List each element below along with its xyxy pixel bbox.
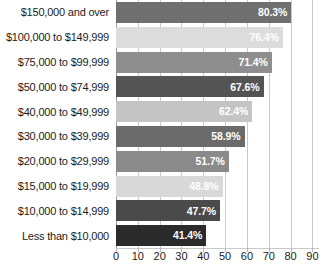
bar: 47.7% — [116, 200, 220, 221]
bar: 62.4% — [116, 101, 252, 122]
category-label: $75,000 to $99,999 — [18, 52, 109, 73]
category-label: $150,000 and over — [21, 2, 109, 23]
bar: 71.4% — [116, 52, 272, 73]
bar: 76.4% — [116, 27, 283, 48]
category-label: $30,000 to $39,999 — [18, 126, 109, 147]
bar-chart: $150,000 and over$100,000 to $149,999$75… — [0, 0, 326, 268]
bar-value-label: 58.9% — [211, 131, 240, 142]
bar-value-label: 67.6% — [230, 82, 259, 93]
category-label: $50,000 to $74,999 — [18, 76, 109, 97]
category-label: $40,000 to $49,999 — [18, 101, 109, 122]
bar: 51.7% — [116, 151, 229, 172]
x-tick-label: 10 — [132, 250, 144, 262]
x-axis: 0102030405060708090 — [116, 248, 319, 268]
bar-value-label: 80.3% — [258, 7, 287, 18]
bar: 48.8% — [116, 176, 223, 197]
category-label: $100,000 to $149,999 — [6, 27, 109, 48]
x-tick-label: 30 — [175, 250, 187, 262]
x-tick-label: 20 — [154, 250, 166, 262]
category-label: $10,000 to $14,999 — [18, 200, 109, 221]
bar-value-label: 48.8% — [189, 181, 218, 192]
bar: 80.3% — [116, 2, 291, 23]
plot-area: 80.3%76.4%71.4%67.6%62.4%58.9%51.7%48.8%… — [116, 0, 319, 248]
x-tick-label: 40 — [197, 250, 209, 262]
category-label: $15,000 to $19,999 — [18, 176, 109, 197]
x-tick-label: 80 — [284, 250, 296, 262]
x-axis-line — [116, 248, 319, 249]
bar-value-label: 62.4% — [219, 106, 248, 117]
bar: 67.6% — [116, 76, 264, 97]
x-tick-label: 50 — [219, 250, 231, 262]
x-tick-label: 0 — [113, 250, 119, 262]
category-label: Less than $10,000 — [22, 225, 109, 246]
category-axis: $150,000 and over$100,000 to $149,999$75… — [0, 0, 113, 248]
x-tick-label: 90 — [306, 250, 318, 262]
x-tick-label: 60 — [241, 250, 253, 262]
x-tick-label: 70 — [263, 250, 275, 262]
bar-value-label: 41.4% — [173, 230, 202, 241]
bar-value-label: 47.7% — [187, 206, 216, 217]
bar-value-label: 76.4% — [249, 32, 278, 43]
bar-value-label: 51.7% — [196, 156, 225, 167]
bar: 58.9% — [116, 126, 245, 147]
bar-series: 80.3%76.4%71.4%67.6%62.4%58.9%51.7%48.8%… — [116, 0, 319, 248]
bar-value-label: 71.4% — [239, 57, 268, 68]
category-label: $20,000 to $29,999 — [18, 151, 109, 172]
bar: 41.4% — [116, 225, 206, 246]
